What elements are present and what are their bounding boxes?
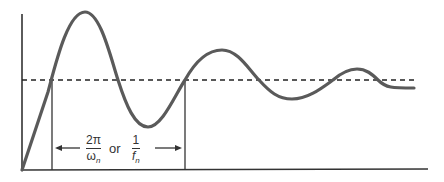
fraction-numerator: 2π [86,134,101,147]
fraction-denominator: ωn [87,150,101,167]
x-axis [22,169,428,170]
arrowhead-left-icon [55,145,62,151]
arrowhead-right-icon [175,145,182,151]
fraction-denominator: fn [132,150,140,167]
period-fraction-2pi-over-omega: 2π ωn [86,134,101,167]
period-fraction-1-over-f: 1 fn [132,134,140,167]
or-label: or [109,142,121,155]
diagram-canvas [0,0,444,182]
response-curve [22,12,414,170]
fraction-numerator: 1 [133,134,140,147]
